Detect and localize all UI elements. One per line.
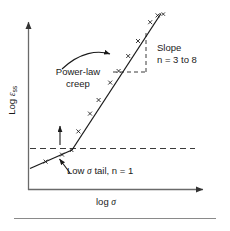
y-axis-label-prefix: Log [6,96,17,115]
marker-x [88,112,92,116]
marker-x [117,69,121,73]
slope-annotation-line2: n = 3 to 8 [157,54,197,66]
power-law-annotation-line2: creep [47,78,109,90]
y-axis-label-symbol: ε [7,93,17,97]
marker-x [126,54,130,58]
marker-x [156,13,160,17]
power-law-annotation-line1: Power-law [56,66,100,77]
slope-annotation-line1: Slope [157,42,181,53]
marker-x [162,12,165,15]
low-sigma-tail-segment [30,150,72,169]
slope-annotation: Slopen = 3 to 8 [157,42,197,65]
data-curve [30,14,161,169]
y-axis-label: Log εss [6,69,21,131]
low-sigma-tail-annotation: Low σ tail, n = 1 [67,165,133,178]
creep-rate-schematic-figure: Log εss log σ Slopen = 3 to 8 Power-lawc… [0,0,230,231]
x-axis-label: log σ [96,196,116,209]
low-tail-prefix: Low [67,165,87,176]
x-axis-label-symbol: σ [111,197,116,207]
marker-x [148,20,152,24]
low-tail-suffix: tail, n = 1 [92,165,133,176]
marker-x [97,98,101,102]
x-axis-label-prefix: log [96,196,111,207]
marker-x [136,39,140,43]
y-axis-label-subscript: ss [11,86,18,93]
marker-x [76,129,80,133]
power-law-creep-annotation: Power-lawcreep [47,66,109,89]
